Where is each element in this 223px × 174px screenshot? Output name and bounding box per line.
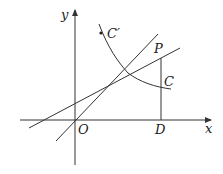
diagram-canvas: y x O D P C C′ — [0, 0, 223, 174]
tangent-line — [29, 48, 180, 128]
origin-label: O — [78, 122, 89, 137]
point-c-prime-dot — [99, 31, 102, 34]
line-through-origin — [56, 34, 158, 141]
curve-c-label: C — [164, 74, 174, 89]
point-p-label: P — [153, 41, 163, 56]
point-c-prime-label: C′ — [107, 26, 120, 41]
x-axis-label: x — [205, 121, 213, 136]
point-d-label: D — [154, 122, 166, 137]
y-axis-label: y — [60, 7, 69, 22]
